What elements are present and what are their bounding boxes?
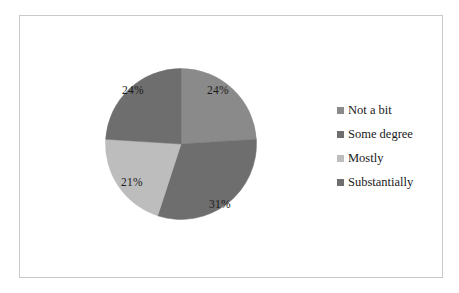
chart-legend: Not a bit Some degree Mostly Substantial… (337, 98, 441, 194)
legend-item-label: Mostly (348, 152, 383, 165)
pie-chart-plot-area: 24% 31% 21% 24% Not a bit Some degree Mo… (0, 0, 459, 293)
legend-swatch-icon (337, 179, 344, 186)
legend-swatch-icon (337, 155, 344, 162)
pie-slice-label-mostly: 21% (121, 176, 143, 188)
legend-item-mostly[interactable]: Mostly (337, 146, 441, 170)
legend-item-not-a-bit[interactable]: Not a bit (337, 98, 441, 122)
pie-slice-label-some-degree: 31% (209, 198, 231, 210)
legend-swatch-icon (337, 131, 344, 138)
legend-item-some-degree[interactable]: Some degree (337, 122, 441, 146)
legend-swatch-icon (337, 107, 344, 114)
pie-slice[interactable] (181, 69, 256, 145)
legend-item-label: Not a bit (348, 104, 392, 117)
pie-slice-label-substantially: 24% (122, 84, 144, 96)
pie-slice-label-not-a-bit: 24% (207, 84, 229, 96)
pie-slice[interactable] (106, 69, 181, 145)
legend-item-substantially[interactable]: Substantially (337, 170, 441, 194)
chart-canvas: 24% 31% 21% 24% Not a bit Some degree Mo… (0, 0, 459, 293)
legend-item-label: Some degree (348, 128, 413, 141)
legend-item-label: Substantially (348, 176, 413, 189)
